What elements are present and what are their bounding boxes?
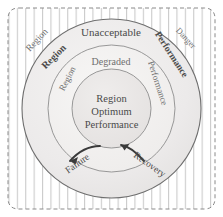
label-unacceptable: Unacceptable [81, 26, 141, 38]
diagram-canvas: Region Danger Region Unacceptable Perfor… [0, 0, 223, 217]
label-center-optimum: Optimum [91, 106, 131, 117]
label-center-region: Region [96, 93, 127, 104]
performance-region-diagram: Region Danger Region Unacceptable Perfor… [0, 0, 223, 217]
label-center-performance: Performance [85, 119, 139, 130]
label-degraded: Degraded [92, 56, 131, 67]
